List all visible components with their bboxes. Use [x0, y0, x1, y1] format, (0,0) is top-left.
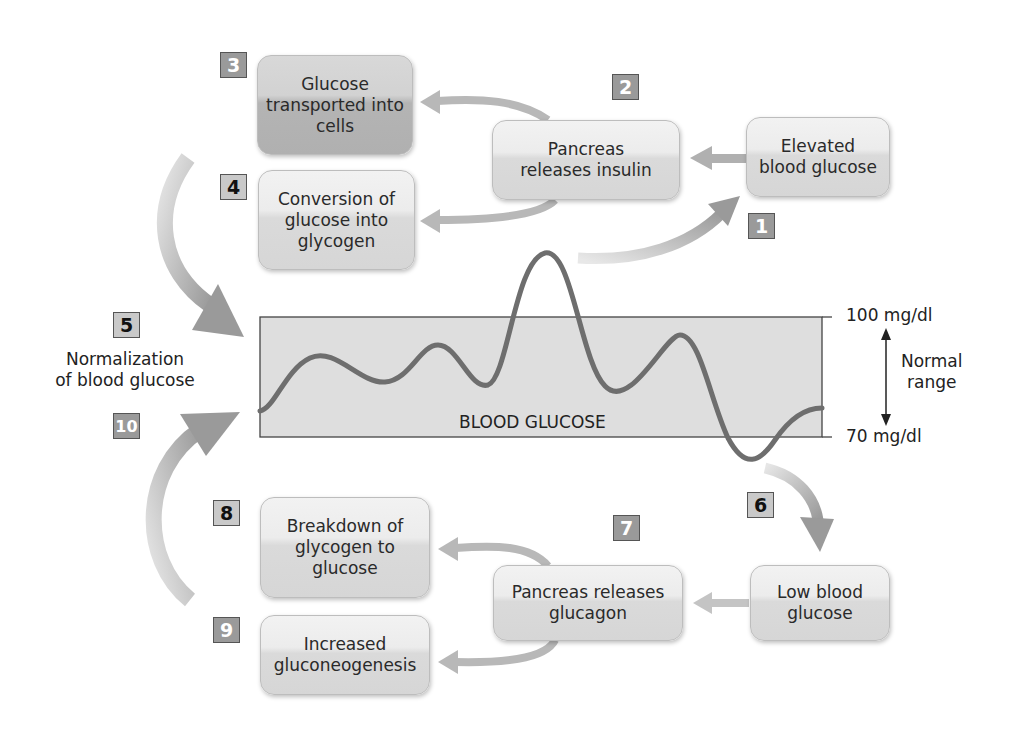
step-box-glycogen-conversion: Conversion of glucose into glycogen — [258, 170, 415, 270]
step-8-line-3: glucose — [287, 558, 404, 579]
lower-limit-label: 70 mg/dl — [846, 426, 922, 447]
arrow-to-elevated-icon — [578, 196, 740, 259]
step-badge-5: 5 — [113, 312, 140, 338]
step-6-line-2: glucose — [777, 603, 863, 624]
step-8-line-1: Breakdown of — [287, 516, 404, 537]
arrow-to-pancreas-glucagon-icon — [693, 592, 749, 614]
upper-limit-label: 100 mg/dl — [846, 305, 932, 326]
step-4-line-3: glycogen — [278, 231, 395, 252]
step-4-line-1: Conversion of — [278, 189, 395, 210]
step-box-low-glucose: Low blood glucose — [750, 565, 890, 641]
step-box-gluconeogenesis: Increased gluconeogenesis — [260, 615, 430, 695]
step-5-line-2: of blood glucose — [50, 370, 200, 391]
step-5-line-1: Normalization — [50, 349, 200, 370]
normalization-label: Normalization of blood glucose — [50, 349, 200, 391]
step-2-line-1: Pancreas — [520, 139, 652, 160]
step-box-pancreas-insulin: Pancreas releases insulin — [492, 120, 680, 200]
step-box-glucose-transport: Glucose transported into cells — [257, 55, 413, 155]
arrow-to-gluconeogenesis-icon — [438, 640, 555, 674]
step-box-elevated-glucose: Elevated blood glucose — [746, 117, 890, 197]
step-badge-4: 4 — [220, 174, 247, 200]
step-badge-7: 7 — [613, 515, 640, 541]
step-box-pancreas-glucagon: Pancreas releases glucagon — [493, 565, 683, 641]
step-1-line-1: Elevated — [759, 136, 877, 157]
arrow-to-glucose-transport-icon — [420, 90, 548, 120]
normal-range-line-1: Normal — [901, 351, 963, 372]
step-2-line-2: releases insulin — [520, 160, 652, 181]
step-badge-10: 10 — [113, 413, 140, 439]
step-badge-8: 8 — [213, 500, 240, 526]
step-badge-9: 9 — [213, 617, 240, 643]
step-3-line-2: transported into — [266, 95, 404, 116]
arrow-to-glycogen-conversion-icon — [420, 200, 555, 233]
step-badge-2: 2 — [612, 74, 639, 100]
step-7-line-2: glucagon — [512, 603, 665, 624]
step-9-line-1: Increased — [274, 634, 417, 655]
step-4-line-2: glucose into — [278, 210, 395, 231]
step-9-line-2: gluconeogenesis — [274, 655, 417, 676]
step-7-line-1: Pancreas releases — [512, 582, 665, 603]
step-box-glycogen-breakdown: Breakdown of glycogen to glucose — [260, 497, 430, 598]
arrow-to-glycogen-breakdown-icon — [438, 537, 548, 566]
step-3-line-3: cells — [266, 116, 404, 137]
step-badge-1: 1 — [748, 213, 775, 239]
arrow-to-low-glucose-icon — [765, 468, 834, 552]
arrow-to-pancreas-insulin-icon — [690, 146, 747, 170]
step-1-line-2: blood glucose — [759, 157, 877, 178]
normal-range-label: Normal range — [901, 351, 963, 393]
chart-label: BLOOD GLUCOSE — [459, 412, 606, 432]
step-badge-3: 3 — [220, 52, 247, 78]
step-6-line-1: Low blood — [777, 582, 863, 603]
normal-range-line-2: range — [901, 372, 963, 393]
step-3-line-1: Glucose — [266, 74, 404, 95]
step-badge-6: 6 — [747, 492, 774, 518]
normal-range-arrow-icon — [881, 328, 891, 426]
step-8-line-2: glycogen to — [287, 537, 404, 558]
